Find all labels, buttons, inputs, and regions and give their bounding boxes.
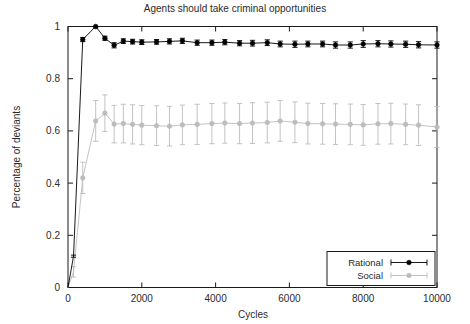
data-point-marker xyxy=(320,42,325,47)
data-point-marker xyxy=(93,119,98,124)
data-point-marker xyxy=(112,122,117,127)
y-tick-label: 0.4 xyxy=(46,178,60,189)
data-point-marker xyxy=(361,42,366,47)
x-tick-label: 4000 xyxy=(204,293,227,304)
x-tick-label: 6000 xyxy=(278,293,301,304)
data-point-marker xyxy=(195,40,200,45)
x-tick-label: 0 xyxy=(65,293,71,304)
data-point-marker xyxy=(265,120,270,125)
legend-marker-rational xyxy=(407,260,412,265)
data-point-marker xyxy=(265,40,270,45)
data-point-marker xyxy=(333,122,338,127)
data-point-marker xyxy=(237,121,242,126)
y-axis-label: Percentage of deviants xyxy=(11,106,22,208)
data-point-marker xyxy=(121,39,126,44)
x-tick-label: 2000 xyxy=(131,293,154,304)
data-point-marker xyxy=(306,121,311,126)
data-point-marker xyxy=(223,121,228,126)
data-point-marker xyxy=(167,124,172,129)
data-point-marker xyxy=(403,42,408,47)
data-point-marker xyxy=(376,41,381,46)
data-point-marker xyxy=(403,122,408,127)
data-point-marker xyxy=(250,41,255,46)
y-tick-label: 0 xyxy=(54,282,60,293)
data-point-marker xyxy=(210,40,215,45)
x-tick-label: 8000 xyxy=(352,293,375,304)
data-point-marker xyxy=(93,24,98,29)
data-point-marker xyxy=(361,123,366,128)
chart-title: Agents should take criminal opportunitie… xyxy=(144,3,326,14)
data-point-marker xyxy=(121,121,126,126)
data-point-marker xyxy=(306,42,311,47)
y-tick-label: 0.6 xyxy=(46,125,60,136)
y-tick-label: 1 xyxy=(54,21,60,32)
data-point-marker xyxy=(154,40,159,45)
y-tick-label: 0.2 xyxy=(46,230,60,241)
data-point-marker xyxy=(348,43,353,48)
chart-legend: RationalSocial xyxy=(327,252,435,286)
data-point-marker xyxy=(180,39,185,44)
data-point-marker xyxy=(376,122,381,127)
data-point-marker xyxy=(333,43,338,48)
legend-marker-social xyxy=(407,273,412,278)
data-point-marker xyxy=(293,42,298,47)
chart-figure: Agents should take criminal opportunitie… xyxy=(0,0,470,324)
data-point-marker xyxy=(140,123,145,128)
data-point-marker xyxy=(130,39,135,44)
data-point-marker xyxy=(223,40,228,45)
y-tick-label: 0.8 xyxy=(46,73,60,84)
data-point-marker xyxy=(154,123,159,128)
data-point-marker xyxy=(293,120,298,125)
data-point-marker xyxy=(210,121,215,126)
data-point-marker xyxy=(389,42,394,47)
data-point-marker xyxy=(416,42,421,47)
data-point-marker xyxy=(435,43,440,48)
data-point-marker xyxy=(278,119,283,124)
data-point-marker xyxy=(140,40,145,45)
data-point-marker xyxy=(80,37,85,42)
data-point-marker xyxy=(250,121,255,126)
data-point-marker xyxy=(348,122,353,127)
x-tick-label: 10000 xyxy=(423,293,451,304)
x-axis-label: Cycles xyxy=(238,309,268,320)
data-point-marker xyxy=(103,36,108,41)
data-point-marker xyxy=(130,122,135,127)
data-point-marker xyxy=(103,111,108,116)
data-point-marker xyxy=(278,42,283,47)
data-point-marker xyxy=(180,123,185,128)
data-point-marker xyxy=(320,122,325,127)
data-point-marker xyxy=(167,39,172,44)
data-point-marker xyxy=(195,122,200,127)
data-point-marker xyxy=(435,125,440,130)
data-point-marker xyxy=(112,43,117,48)
chart-canvas: Agents should take criminal opportunitie… xyxy=(0,0,470,324)
data-point-marker xyxy=(389,121,394,126)
data-point-marker xyxy=(80,176,85,181)
data-point-marker xyxy=(416,123,421,128)
legend-label-rational: Rational xyxy=(348,257,383,268)
data-point-marker xyxy=(237,41,242,46)
legend-label-social: Social xyxy=(357,270,383,281)
